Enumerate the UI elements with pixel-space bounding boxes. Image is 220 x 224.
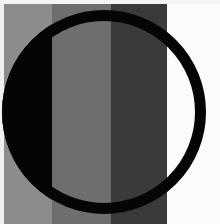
top-margin-strip bbox=[0, 0, 220, 4]
band-band-mid-gray bbox=[52, 0, 111, 224]
band-band-white bbox=[167, 0, 220, 224]
artwork-canvas: Abstract Grayscale Composition Vertical … bbox=[0, 0, 220, 224]
abstract-grayscale-composition: Abstract Grayscale Composition Vertical … bbox=[0, 0, 220, 224]
